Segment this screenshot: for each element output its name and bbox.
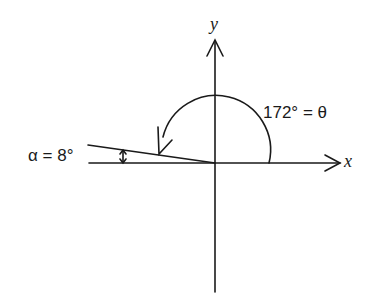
theta-label: 172° = θ [263, 103, 327, 123]
terminal-ray [88, 145, 215, 163]
alpha-label: α = 8° [28, 146, 73, 166]
theta-arc [163, 95, 271, 163]
x-axis-label: x [344, 151, 352, 172]
y-axis-label: y [210, 14, 218, 35]
